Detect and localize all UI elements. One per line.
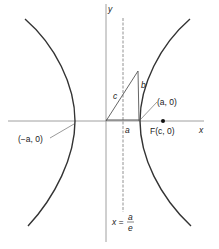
base-label: a bbox=[125, 125, 130, 135]
hypotenuse-label: c bbox=[113, 91, 118, 101]
left-vertex-leader bbox=[50, 124, 74, 138]
triangle-hypotenuse bbox=[106, 71, 138, 121]
triangle-height bbox=[138, 71, 139, 121]
directrix-numerator: a bbox=[128, 212, 133, 222]
hyperbola-diagram: y x (−a, 0) (a, 0) F(c, 0) a c b x = a e bbox=[0, 0, 219, 249]
directrix-denominator: e bbox=[128, 223, 133, 233]
directrix-lhs: x = bbox=[111, 217, 124, 227]
right-vertex-leader bbox=[140, 102, 157, 120]
height-label: b bbox=[141, 80, 146, 90]
hyperbola-right-branch bbox=[140, 19, 191, 226]
focus-point bbox=[161, 119, 165, 123]
focus-label: F(c, 0) bbox=[150, 126, 175, 136]
x-axis-label: x bbox=[198, 125, 204, 135]
right-vertex-label: (a, 0) bbox=[157, 97, 177, 107]
hyperbola-left-branch bbox=[25, 19, 75, 226]
y-axis-label: y bbox=[107, 4, 113, 14]
left-vertex-label: (−a, 0) bbox=[18, 134, 43, 144]
